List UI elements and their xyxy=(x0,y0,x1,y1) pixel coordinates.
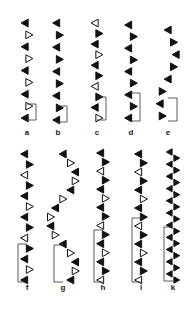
repeat-unit-bracket xyxy=(54,245,63,282)
tetrahedron-icon xyxy=(135,204,142,212)
chain-panel-g xyxy=(47,150,79,284)
tetrahedron-icon xyxy=(159,112,166,120)
tetrahedron-icon xyxy=(72,177,79,185)
tetrahedron-icon xyxy=(135,258,142,266)
tetrahedron-icon xyxy=(125,44,132,52)
tetrahedron-icon xyxy=(53,43,60,51)
tetrahedron-icon xyxy=(97,204,104,212)
tetrahedron-icon xyxy=(159,88,166,96)
tetrahedron-icon xyxy=(166,161,172,167)
tetrahedron-icon xyxy=(164,26,171,34)
tetrahedron-icon xyxy=(102,195,109,203)
chain-panel-d xyxy=(125,21,140,122)
tetrahedron-icon xyxy=(21,67,28,75)
tetrahedron-icon xyxy=(60,195,67,203)
tetrahedron-icon xyxy=(91,82,98,90)
tetrahedron-icon xyxy=(59,240,66,248)
tetrahedron-icon xyxy=(174,204,180,210)
panel-label-d: d xyxy=(125,128,137,137)
tetrahedron-icon xyxy=(97,185,104,193)
tetrahedron-icon xyxy=(172,51,179,59)
tetrahedron-icon xyxy=(135,186,142,194)
tetrahedron-icon xyxy=(21,19,28,27)
tetrahedron-icon xyxy=(174,265,180,271)
tetrahedron-icon xyxy=(125,114,132,122)
chain-panel-e xyxy=(156,26,179,121)
panel-label-f: f xyxy=(21,283,33,292)
panel-label-g: g xyxy=(57,283,69,292)
panel-label-i: i xyxy=(135,283,147,292)
tetrahedron-icon xyxy=(174,191,180,197)
tetrahedron-icon xyxy=(26,266,33,274)
tetrahedron-icon xyxy=(174,216,180,222)
tetrahedron-icon xyxy=(72,267,79,275)
tetrahedron-icon xyxy=(166,149,172,155)
tetrahedron-icon xyxy=(21,90,28,98)
tetrahedron-icon xyxy=(135,240,142,248)
tetrahedron-icon xyxy=(96,30,103,38)
chain-panel-c xyxy=(91,19,106,122)
tetrahedron-icon xyxy=(21,255,28,263)
tetrahedron-icon xyxy=(21,213,28,221)
tetrahedron-icon xyxy=(59,150,66,158)
silicate-chain-figure xyxy=(0,0,196,313)
panel-label-a: a xyxy=(21,128,33,137)
tetrahedron-icon xyxy=(102,213,109,221)
tetrahedron-icon xyxy=(97,222,104,230)
tetrahedron-icon xyxy=(56,31,63,39)
tetrahedron-icon xyxy=(21,150,28,158)
tetrahedron-icon xyxy=(140,231,147,239)
tetrahedron-icon xyxy=(140,213,147,221)
tetrahedron-icon xyxy=(102,231,109,239)
tetrahedron-icon xyxy=(140,177,147,185)
tetrahedron-icon xyxy=(174,252,180,258)
panel-label-h: h xyxy=(97,283,109,292)
tetrahedron-icon xyxy=(96,51,103,59)
tetrahedron-icon xyxy=(135,222,142,230)
tetrahedron-icon xyxy=(26,79,33,87)
tetrahedron-icon xyxy=(26,55,33,63)
tetrahedron-icon xyxy=(102,267,109,275)
tetrahedron-icon xyxy=(91,61,98,69)
panel-label-c: c xyxy=(91,128,103,137)
tetrahedron-icon xyxy=(67,186,74,194)
tetrahedron-icon xyxy=(26,203,33,211)
tetrahedron-icon xyxy=(97,240,104,248)
tetrahedron-icon xyxy=(53,68,60,76)
tetrahedron-icon xyxy=(174,240,180,246)
tetrahedron-icon xyxy=(166,271,172,277)
tetrahedron-icon xyxy=(91,19,98,27)
tetrahedron-icon xyxy=(21,192,28,200)
tetrahedron-icon xyxy=(91,104,98,112)
tetrahedron-icon xyxy=(125,68,132,76)
tetrahedron-icon xyxy=(140,267,147,275)
tetrahedron-icon xyxy=(174,228,180,234)
tetrahedron-icon xyxy=(72,258,79,266)
tetrahedron-icon xyxy=(174,155,180,161)
chain-panel-f xyxy=(18,150,33,284)
tetrahedron-icon xyxy=(174,167,180,173)
tetrahedron-icon xyxy=(166,185,172,191)
tetrahedron-icon xyxy=(53,116,60,124)
chain-panel-k xyxy=(164,149,180,283)
tetrahedron-icon xyxy=(96,114,103,122)
tetrahedron-icon xyxy=(21,114,28,122)
tetrahedron-icon xyxy=(102,176,109,184)
tetrahedron-icon xyxy=(130,103,137,111)
tetrahedron-icon xyxy=(140,195,147,203)
chain-diagrams xyxy=(0,0,196,313)
tetrahedron-icon xyxy=(21,234,28,242)
tetrahedron-icon xyxy=(21,43,28,51)
tetrahedron-icon xyxy=(171,63,178,71)
chain-panel-b xyxy=(53,19,67,124)
tetrahedron-icon xyxy=(91,40,98,48)
panel-label-k: k xyxy=(167,283,179,292)
repeat-unit-bracket xyxy=(168,98,177,121)
tetrahedron-icon xyxy=(166,210,172,216)
tetrahedron-icon xyxy=(166,198,172,204)
tetrahedron-icon xyxy=(52,204,59,212)
tetrahedron-icon xyxy=(130,56,137,64)
tetrahedron-icon xyxy=(140,159,147,167)
tetrahedron-icon xyxy=(67,159,74,167)
tetrahedron-icon xyxy=(26,31,33,39)
